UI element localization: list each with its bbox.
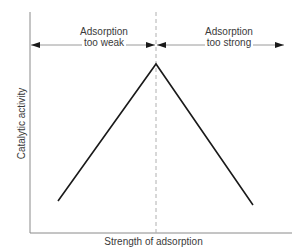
region-label-strong: Adsorption too strong [169,26,289,48]
y-axis-label: Catalytic activity [16,69,27,179]
region-label-line1: Adsorption [169,26,289,37]
region-label-weak: Adsorption too weak [44,26,164,48]
region-label-line1: Adsorption [44,26,164,37]
arrowhead-left-icon [31,42,40,48]
region-label-line2: too strong [205,37,253,48]
x-axis-label: Strength of adsorption [0,236,307,247]
region-label-line2: too weak [82,37,126,48]
